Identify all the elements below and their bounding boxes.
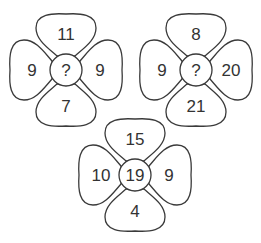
- left-value: 9: [157, 61, 166, 80]
- right-value: 9: [164, 166, 173, 185]
- bottom-value: 21: [187, 97, 206, 116]
- top-value: 15: [126, 130, 145, 149]
- top-value: 8: [191, 25, 200, 44]
- flower-3: 15 10 9 4 19: [79, 119, 192, 232]
- flower-puzzle: 11 9 9 7 ? 8 9 20 21 ? 15 10 9 4 19: [0, 0, 261, 243]
- center-value: ?: [191, 61, 200, 80]
- bottom-value: 4: [130, 202, 139, 221]
- right-value: 9: [95, 61, 104, 80]
- center-value: ?: [61, 61, 70, 80]
- center-value: 19: [126, 166, 145, 185]
- bottom-value: 7: [61, 97, 70, 116]
- top-value: 11: [57, 25, 75, 44]
- flower-1: 11 9 9 7 ?: [10, 14, 123, 127]
- right-value: 20: [222, 61, 241, 80]
- left-value: 9: [27, 61, 36, 80]
- flower-2: 8 9 20 21 ?: [140, 14, 253, 127]
- left-value: 10: [92, 166, 111, 185]
